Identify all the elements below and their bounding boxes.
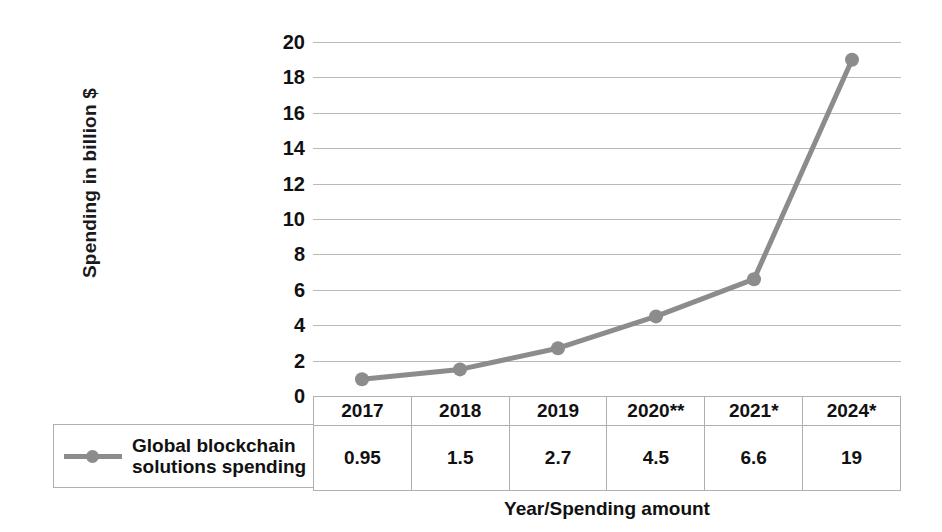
table-header-cell: 2024* [803,397,901,426]
data-point-marker [845,53,859,67]
y-axis-tick-label: 2 [253,351,305,371]
table-header-cell: 2018 [411,397,509,426]
table-header-cell: 2021* [705,397,803,426]
table-cell: 6.6 [705,426,803,491]
legend-marker-icon [64,447,122,465]
y-axis-tick-label: 4 [253,315,305,335]
table-cell: 1.5 [411,426,509,491]
table-header-cell: 2019 [509,397,607,426]
y-axis-tick-label: 6 [253,280,305,300]
table-cell: 19 [803,426,901,491]
y-axis-tick-label: 0 [253,386,305,406]
y-axis-tick-label: 8 [253,244,305,264]
table-row: 0.951.52.74.56.619 [314,426,901,491]
y-axis-tick-label: 12 [253,174,305,194]
legend-label-line2: solutions spending [132,456,306,477]
series-line-global-blockchain-solutions-spending [313,42,901,396]
y-axis-tick-label: 10 [253,209,305,229]
data-point-marker [355,372,369,386]
y-axis-tick-label: 20 [253,32,305,52]
chart-container: Spending in billion $ 20181614121086420 … [0,0,942,532]
table-cell: 0.95 [314,426,412,491]
plot-area [313,42,901,396]
table-cell: 2.7 [509,426,607,491]
data-point-marker [747,272,761,286]
y-axis-tick-labels: 20181614121086420 [245,42,305,396]
legend: Global blockchain solutions spending [53,424,313,488]
y-axis-title: Spending in billion $ [79,38,101,328]
table-header-row: 2017201820192020**2021*2024* [314,397,901,426]
y-axis-tick-label: 14 [253,138,305,158]
table-cell: 4.5 [607,426,705,491]
series-polyline [362,60,852,380]
table-header-cell: 2020** [607,397,705,426]
data-point-marker [551,341,565,355]
y-axis-tick-label: 18 [253,67,305,87]
legend-label: Global blockchain solutions spending [132,435,306,478]
x-axis-title: Year/Spending amount [313,498,901,520]
y-axis-tick-label: 16 [253,103,305,123]
table-header-cell: 2017 [314,397,412,426]
data-point-marker [453,362,467,376]
data-table: 2017201820192020**2021*2024*0.951.52.74.… [313,396,901,491]
data-point-marker [649,309,663,323]
legend-label-line1: Global blockchain [132,435,296,456]
